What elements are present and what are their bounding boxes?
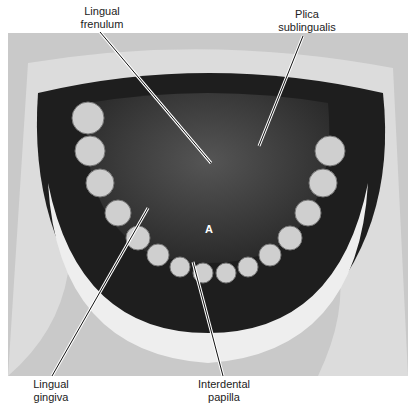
label-lingual-gingiva: Lingual gingiva (28, 378, 74, 404)
leader-lingual-gingiva (52, 208, 148, 376)
label-line-2: papilla (192, 391, 256, 404)
label-line-2: gingiva (28, 391, 74, 404)
label-line-1: Interdental (192, 378, 256, 391)
leader-lines (0, 0, 417, 410)
label-interdental-papilla: Interdental papilla (192, 378, 256, 404)
leader-lingual-frenulum (100, 32, 211, 163)
leader-plica-sublingualis (259, 36, 303, 146)
leader-interdental-papilla (193, 262, 223, 376)
label-line-1: Lingual (28, 378, 74, 391)
